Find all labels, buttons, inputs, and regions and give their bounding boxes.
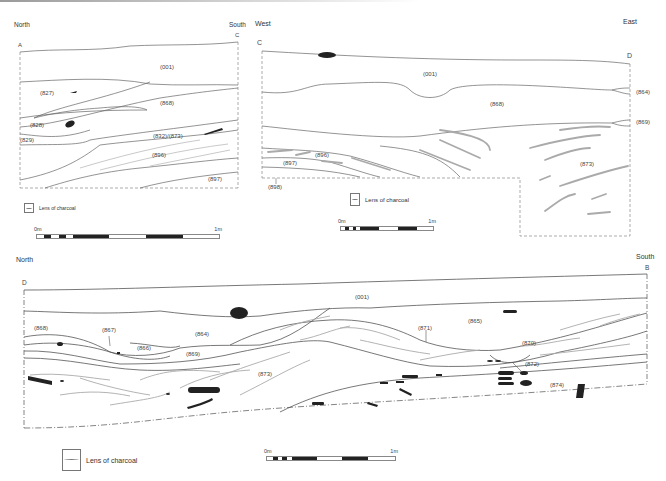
context-label-898: (898) [268,184,282,190]
context-label-897: (897) [208,176,222,182]
section-ac-scale-bar: 0m 1m [36,234,220,239]
section-drawings-canvas [0,0,666,481]
scale-end: 1m [214,226,222,232]
context-label-864: (864) [636,89,650,95]
context-label-874: (874) [550,382,564,388]
context-label-897: (897) [283,160,297,166]
section-db-scale-bar: 0m 1m [266,456,396,461]
context-label-827: (827) [40,90,54,96]
context-label-868: (868) [490,101,504,107]
context-label-869: (869) [636,119,650,125]
context-label-864: (864) [195,331,209,337]
section-ac-drawing [20,42,238,188]
section-ac-charcoal [64,91,223,135]
context-label-867: (867) [102,327,116,333]
section-db-point-d: D [22,279,27,286]
scale-start: 0m [34,226,42,232]
section-db-orientation-south: South [636,253,654,260]
context-label-872: (872) [525,361,539,367]
context-label-896: (896) [152,152,166,158]
section-ac-orientation-south: South [229,21,246,28]
section-db-drawing [24,274,647,428]
section-db-point-b: B [645,264,649,271]
section-ac-orientation-north: North [14,21,30,28]
context-label-001: (001) [355,294,369,300]
section-db-orientation-north: North [16,256,33,263]
context-label-873: (873) [580,161,594,167]
context-label-868: (868) [160,100,174,106]
section-cd-orientation-east: East [623,18,637,25]
scale-end: 1m [390,448,398,454]
section-ac-point-a: A [18,42,22,48]
scale-start: 0m [338,218,346,224]
lens-swatch-icon [62,449,81,471]
legend-label: Lens of charcoal [365,197,409,203]
context-label-871: (871) [418,325,432,331]
scale-start: 0m [264,448,272,454]
scale-end: 1m [428,218,436,224]
section-cd-orientation-west: West [255,20,271,27]
legend-label: Lens of charcoal [39,205,76,211]
lens-swatch-icon [350,193,360,206]
section-cd-legend: Lens of charcoal [350,193,409,206]
context-label-866: (866) [137,345,151,351]
section-ac-point-c: C [235,32,239,38]
section-cd-scale-bar: 0m 1m [340,226,434,231]
lens-swatch-icon [24,203,34,213]
context-label-828: (828) [30,122,44,128]
context-label-001: (001) [423,71,437,77]
context-label-001: (001) [160,64,174,70]
context-label-870: (870) [522,340,536,346]
section-cd-lenses [268,127,628,214]
context-label-873: (873) [258,371,272,377]
section-cd-point-d: D [627,52,632,59]
section-cd-point-c: C [257,39,262,46]
context-label-869: (869) [186,351,200,357]
context-label-832-873: (832)/(873) [153,133,183,139]
context-label-868: (868) [34,325,48,331]
context-label-896: (896) [315,152,329,158]
context-label-829: (829) [20,137,34,143]
section-ac-legend: Lens of charcoal [24,203,76,213]
legend-label: Lens of charcoal [86,457,137,464]
section-db-legend: Lens of charcoal [62,449,137,471]
context-label-865: (865) [468,318,482,324]
section-cd-charcoal [318,52,336,58]
